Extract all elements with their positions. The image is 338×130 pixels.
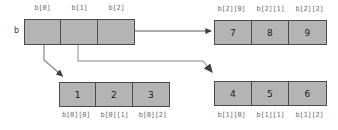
label-b1-1: b[1][1] xyxy=(251,111,290,119)
cell-b0-2: 3 xyxy=(133,83,169,106)
cell-b1-2: 6 xyxy=(289,82,326,105)
row-array-b1: 4 5 6 xyxy=(214,81,327,106)
pointer-array-b xyxy=(24,19,135,45)
label-b0-1: b[0][1] xyxy=(95,111,133,119)
label-b1-2: b[1][2] xyxy=(290,111,329,119)
label-b0: b[0] xyxy=(24,4,61,12)
label-b2-1: b[2][1] xyxy=(251,5,290,13)
cell-b0-0: 1 xyxy=(60,83,96,106)
label-b1: b[1] xyxy=(61,4,98,12)
row-array-b1-labels: b[1][0] b[1][1] b[1][2] xyxy=(212,111,329,119)
cell-b1-1: 5 xyxy=(252,82,289,105)
label-b1-0: b[1][0] xyxy=(212,111,251,119)
label-b2: b[2] xyxy=(98,4,135,12)
pointer-array-labels: b[0] b[1] b[2] xyxy=(24,4,135,12)
label-b0-0: b[0][0] xyxy=(57,111,95,119)
array-of-arrays-diagram: b b[0] b[1] b[2] b[2][0] b[2][1] b[2][2]… xyxy=(0,0,338,130)
cell-b2-1: 8 xyxy=(252,21,289,44)
label-b2-2: b[2][2] xyxy=(290,5,329,13)
row-array-b0-labels: b[0][0] b[0][1] b[0][2] xyxy=(57,111,172,119)
cell-b0-1: 2 xyxy=(96,83,132,106)
cell-b2-2: 9 xyxy=(289,21,326,44)
variable-label-b: b xyxy=(14,26,19,35)
row-array-b0: 1 2 3 xyxy=(59,82,170,107)
cell-b0 xyxy=(25,20,61,44)
row-array-b2: 7 8 9 xyxy=(214,20,327,45)
label-b2-0: b[2][0] xyxy=(212,5,251,13)
cell-b2 xyxy=(98,20,134,44)
label-b0-2: b[0][2] xyxy=(134,111,172,119)
row-array-b2-labels: b[2][0] b[2][1] b[2][2] xyxy=(212,5,329,13)
cell-b1 xyxy=(61,20,97,44)
cell-b1-0: 4 xyxy=(215,82,252,105)
cell-b2-0: 7 xyxy=(215,21,252,44)
